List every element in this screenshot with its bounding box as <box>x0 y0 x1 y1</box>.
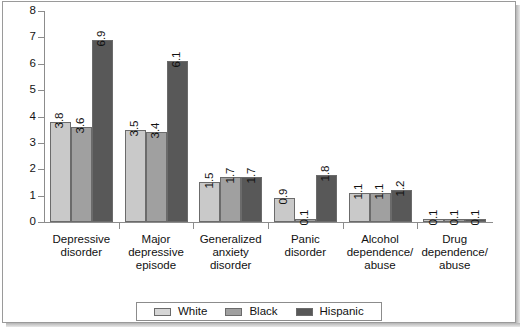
bar-value-label: 1.5 <box>203 173 215 189</box>
x-axis-tick <box>417 223 418 229</box>
y-axis-tick-label: 2 <box>0 163 36 175</box>
bar-value-label: 0.9 <box>278 189 290 205</box>
bar-value-label: 0.1 <box>448 210 460 226</box>
legend-item: Black <box>225 306 277 318</box>
x-axis-category-label: Alcohol dependence/ abuse <box>337 233 424 273</box>
plot-area: 3.83.66.93.53.46.11.51.71.70.90.11.81.11… <box>44 11 492 222</box>
bar-value-label: 3.4 <box>150 123 162 139</box>
y-axis-tick-label: 8 <box>0 5 36 17</box>
y-axis-tick-label: 1 <box>0 190 36 202</box>
bar-value-label: 0.1 <box>469 210 481 226</box>
legend-swatch-icon <box>296 308 313 316</box>
bar-value-label: 0.1 <box>299 210 311 226</box>
bar-value-label: 6.9 <box>96 31 108 47</box>
x-axis-category-label: Depressive disorder <box>38 233 125 259</box>
bar-value-label: 3.8 <box>54 112 66 128</box>
chart-figure: 012345678 3.83.66.93.53.46.11.51.71.70.9… <box>0 0 524 334</box>
bar-value-label: 1.7 <box>224 168 236 184</box>
legend-item: White <box>154 306 207 318</box>
bar <box>146 132 167 222</box>
x-axis-tick <box>193 223 194 229</box>
legend-label: Black <box>249 306 277 318</box>
x-axis-tick <box>119 223 120 229</box>
figure-shadow-right <box>516 5 520 327</box>
y-axis-tick-label: 5 <box>0 84 36 96</box>
figure-shadow-bottom <box>6 323 520 327</box>
legend-swatch-icon <box>225 308 242 316</box>
legend-swatch-icon <box>154 308 171 316</box>
legend-item: Hispanic <box>296 306 364 318</box>
y-axis-tick-label: 4 <box>0 111 36 123</box>
bar-value-label: 1.2 <box>395 181 407 197</box>
bar-value-label: 1.7 <box>245 168 257 184</box>
bar <box>125 130 146 222</box>
x-axis-category-label: Drug dependence/ abuse <box>411 233 498 273</box>
bar <box>316 175 337 222</box>
bar-value-label: 3.6 <box>75 118 87 134</box>
bar-value-label: 1.8 <box>320 165 332 181</box>
x-axis-tick <box>343 223 344 229</box>
x-axis-category-label: Panic disorder <box>262 233 349 259</box>
y-axis-tick-label: 7 <box>0 31 36 43</box>
y-axis-tick-label: 3 <box>0 137 36 149</box>
bar-value-label: 3.5 <box>129 120 141 136</box>
legend-label: White <box>178 306 207 318</box>
bar <box>241 177 262 222</box>
chart-legend: WhiteBlackHispanic <box>136 302 382 321</box>
y-axis-tick-label: 0 <box>0 216 36 228</box>
bar-value-label: 0.1 <box>427 210 439 226</box>
bar <box>71 127 92 222</box>
x-axis-category-label: Major depressive episode <box>113 233 200 273</box>
bar-value-label: 6.1 <box>171 52 183 68</box>
x-axis-category-label: Generalized anxiety disorder <box>187 233 274 273</box>
bar <box>92 40 113 222</box>
bar-value-label: 1.1 <box>374 183 386 199</box>
bar-value-label: 1.1 <box>353 183 365 199</box>
legend-label: Hispanic <box>320 306 364 318</box>
bar <box>167 61 188 222</box>
y-axis-tick-label: 6 <box>0 58 36 70</box>
x-axis-tick <box>268 223 269 229</box>
bar <box>220 177 241 222</box>
bar <box>50 122 71 222</box>
